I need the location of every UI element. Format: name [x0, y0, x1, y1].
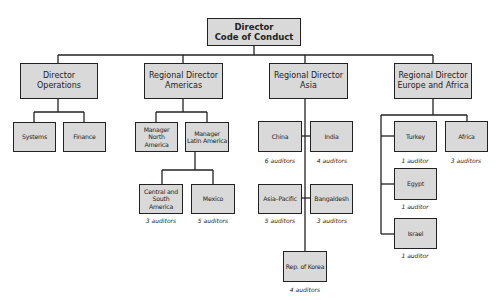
- auditor-count: 4 auditors: [275, 286, 335, 293]
- box-label: Regional Director Americas: [149, 71, 218, 90]
- box-label: Mexico: [203, 195, 223, 202]
- turkey-box: Turkey: [394, 121, 437, 152]
- box-label: India: [324, 133, 338, 140]
- manager-latin-america-box: Manager Latin America: [185, 122, 229, 152]
- auditor-count: 3 auditors: [436, 157, 496, 164]
- mexico-box: Mexico: [191, 184, 235, 214]
- box-label: Director Operations: [37, 71, 81, 90]
- box-label: Regional Director Europe and Africa: [397, 71, 468, 90]
- central-south-america-box: Central and South America: [139, 184, 183, 214]
- systems-box: Systems: [13, 122, 56, 152]
- box-label: Finance: [73, 133, 95, 140]
- box-label: Systems: [22, 133, 47, 140]
- box-label: Manager North America: [136, 126, 177, 148]
- box-label: Egypt: [407, 180, 424, 187]
- auditor-count: 1 auditor: [385, 203, 445, 210]
- africa-box: Africa: [445, 121, 488, 152]
- auditor-count: 4 auditors: [302, 157, 362, 164]
- auditor-count: 6 auditors: [250, 157, 310, 164]
- box-label: Turkey: [406, 133, 425, 140]
- box-label: Regional Director Asia: [274, 71, 343, 90]
- manager-north-america-box: Manager North America: [135, 122, 178, 152]
- box-label: China: [272, 133, 289, 140]
- egypt-box: Egypt: [394, 168, 437, 200]
- auditor-count: 1 auditor: [385, 252, 445, 259]
- box-label: Asia–Pacific: [263, 195, 296, 202]
- box-label: Rep. of Korea: [286, 263, 325, 270]
- box-label: Africa: [458, 133, 474, 140]
- box-label: Central and South America: [140, 188, 182, 210]
- auditor-count: 3 auditors: [131, 217, 191, 224]
- auditor-count: 3 auditors: [302, 217, 362, 224]
- korea-box: Rep. of Korea: [283, 251, 327, 282]
- box-label: Director Code of Conduct: [215, 22, 294, 42]
- box-label: Bangaldesh: [314, 195, 348, 202]
- auditor-count: 5 auditors: [250, 217, 310, 224]
- auditor-count: 5 auditors: [183, 217, 243, 224]
- asia-pacific-box: Asia–Pacific: [258, 184, 302, 214]
- regional-director-asia-box: Regional Director Asia: [269, 63, 348, 99]
- bangladesh-box: Bangaldesh: [310, 184, 353, 214]
- india-box: India: [310, 121, 353, 152]
- regional-director-americas-box: Regional Director Americas: [144, 63, 223, 99]
- director-operations-box: Director Operations: [20, 63, 98, 99]
- china-box: China: [258, 121, 302, 152]
- finance-box: Finance: [63, 122, 106, 152]
- regional-director-europe-africa-box: Regional Director Europe and Africa: [394, 63, 472, 99]
- israel-box: Israel: [394, 218, 437, 249]
- box-label: Manager Latin America: [187, 130, 227, 145]
- box-label: Israel: [408, 230, 424, 237]
- director-code-of-conduct-box: Director Code of Conduct: [207, 18, 301, 46]
